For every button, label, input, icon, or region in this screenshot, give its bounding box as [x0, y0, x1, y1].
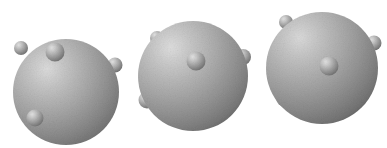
satellite-1-top-center: [46, 43, 65, 62]
figure-container: [0, 0, 387, 148]
sphere-models-illustration: [0, 0, 387, 148]
satellite-1-bottom-left: [27, 110, 44, 127]
satellite-1-top-left: [14, 41, 28, 55]
satellite-2-center: [187, 52, 206, 71]
main-sphere-1: [13, 39, 119, 145]
satellite-3-center: [320, 57, 339, 76]
main-sphere-2: [138, 21, 248, 131]
